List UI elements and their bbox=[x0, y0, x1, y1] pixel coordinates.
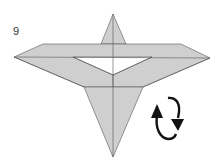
origami-fold-diagram bbox=[0, 0, 221, 163]
bottom-point-flap bbox=[84, 87, 143, 157]
turn-over-rotation-icon bbox=[151, 98, 184, 139]
origami-model bbox=[14, 14, 210, 157]
top-point-flap bbox=[101, 14, 126, 44]
